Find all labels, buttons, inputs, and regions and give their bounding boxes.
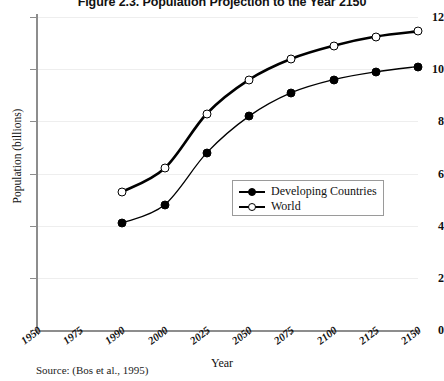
data-point xyxy=(118,187,127,196)
y-tick xyxy=(30,278,37,279)
data-point xyxy=(118,219,127,228)
open-circle-icon xyxy=(239,201,265,213)
y-tick-label: 6 xyxy=(414,166,444,181)
y-tick-label: 4 xyxy=(414,218,444,233)
data-point xyxy=(287,54,296,63)
data-point xyxy=(160,200,169,209)
data-point xyxy=(371,32,380,41)
y-tick-label: 8 xyxy=(414,114,444,129)
y-tick xyxy=(30,174,37,175)
legend: Developing Countries World xyxy=(232,180,384,216)
data-point xyxy=(371,67,380,76)
data-point xyxy=(329,75,338,84)
data-point xyxy=(160,164,169,173)
data-point xyxy=(329,41,338,50)
y-axis-label: Population (billions) xyxy=(11,81,23,231)
data-point xyxy=(202,109,211,118)
chart-title: Figure 2.3. Population Projection to the… xyxy=(0,0,444,9)
series-lines xyxy=(38,17,418,330)
data-point xyxy=(414,62,423,71)
y-tick-label: 12 xyxy=(414,10,444,25)
filled-circle-icon xyxy=(239,186,265,198)
y-tick-label: 2 xyxy=(414,270,444,285)
y-tick xyxy=(30,69,37,70)
data-point xyxy=(202,148,211,157)
data-point xyxy=(414,27,423,36)
legend-item-developing-countries[interactable]: Developing Countries xyxy=(239,184,377,199)
y-tick xyxy=(30,226,37,227)
legend-label-world: World xyxy=(271,199,301,214)
legend-label-developing-countries: Developing Countries xyxy=(271,184,377,199)
figure-container: Figure 2.3. Population Projection to the… xyxy=(0,0,444,381)
data-point xyxy=(287,88,296,97)
legend-item-world[interactable]: World xyxy=(239,199,377,214)
y-tick xyxy=(30,17,37,18)
y-tick xyxy=(30,121,37,122)
plot-area xyxy=(38,17,418,330)
data-point xyxy=(245,112,254,121)
data-point xyxy=(245,75,254,84)
source-note: Source: (Bos et al., 1995) xyxy=(36,364,148,376)
